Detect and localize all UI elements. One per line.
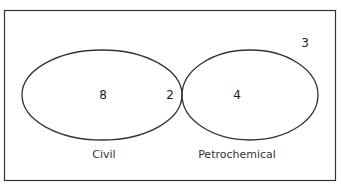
petrochemical-label: Petrochemical bbox=[198, 148, 276, 161]
petrochemical-only-count: 4 bbox=[233, 88, 241, 102]
venn-diagram: 8 2 4 3 Civil Petrochemical bbox=[0, 0, 341, 186]
outside-count: 3 bbox=[301, 36, 309, 50]
civil-label: Civil bbox=[92, 148, 115, 161]
petrochemical-set-ellipse bbox=[182, 50, 318, 140]
civil-only-count: 8 bbox=[99, 88, 107, 102]
intersection-count: 2 bbox=[166, 88, 174, 102]
